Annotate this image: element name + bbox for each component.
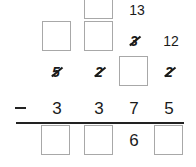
subtrahend-digit-3: 7 [124,99,144,119]
carry-box-2[interactable] [84,21,113,51]
result-digit-3: 6 [124,131,144,151]
minuend-box[interactable] [119,56,148,86]
struck-digit-2a: 2 [91,64,107,80]
subtrahend-digit-4: 5 [159,99,179,119]
carry-value-12: 12 [161,33,181,49]
carry-value-13: 13 [127,2,147,18]
struck-digit-5: 5 [48,64,64,80]
struck-digit-2b: 2 [161,64,177,80]
result-box-2[interactable] [84,125,113,155]
subtrahend-digit-1: 3 [47,99,67,119]
carry-box-top[interactable] [84,0,113,19]
minus-sign [15,107,26,109]
sum-line [16,122,184,124]
struck-digit-3: 3 [126,33,142,49]
subtrahend-digit-2: 3 [89,99,109,119]
result-box-1[interactable] [41,125,70,155]
carry-box-1[interactable] [42,21,71,51]
result-box-4[interactable] [154,125,183,155]
